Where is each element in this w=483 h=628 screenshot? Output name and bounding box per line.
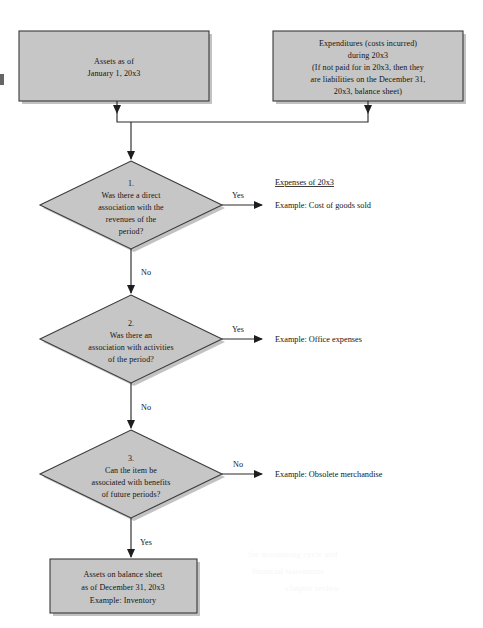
- scan-edge-artifact: [0, 74, 4, 85]
- decision-2-number: 2.: [128, 319, 134, 328]
- expenditures-box: Expenditures (costs incurred) during 20x…: [273, 31, 466, 104]
- decision-2-line-2: association with activities: [88, 343, 173, 352]
- connector-decision-2-no: No: [131, 383, 151, 428]
- connector-decision-1-yes: Yes: [222, 191, 262, 205]
- outcome-1-example: Example: Cost of goods sold: [275, 201, 372, 210]
- outcome-1-heading: Expenses of 20x3: [275, 178, 334, 187]
- outcome-3: Example: Obsolete merchandise: [275, 470, 383, 479]
- decision-3-line-3: of future periods?: [102, 490, 161, 499]
- decision-2: 2. Was there an association with activit…: [40, 295, 225, 386]
- connector-decision-3-no: No: [222, 460, 262, 474]
- decision-2-yes-label: Yes: [232, 325, 244, 334]
- expenditures-box-line-4: are liabilities on the December 31,: [311, 75, 426, 84]
- decision-1-line-4: period?: [119, 227, 144, 236]
- decision-1-line-3: revenues of the: [106, 215, 157, 224]
- connector-decision-3-yes: Yes: [131, 518, 152, 557]
- decision-1-yes-label: Yes: [232, 191, 244, 200]
- decision-1: 1. Was there a direct association with t…: [40, 161, 225, 252]
- decision-1-line-2: association with the: [98, 203, 164, 212]
- decision-2-line-1: Was there an: [110, 331, 152, 340]
- terminal-line-3: Example: Inventory: [90, 596, 157, 605]
- outcome-2-example: Example: Office expenses: [275, 335, 362, 344]
- decision-2-no-label: No: [141, 403, 151, 412]
- decision-3: 3. Can the item be associated with benef…: [40, 430, 225, 521]
- outcome-1: Expenses of 20x3 Example: Cost of goods …: [275, 178, 372, 210]
- outcome-2: Example: Office expenses: [275, 335, 362, 344]
- outcome-3-example: Example: Obsolete merchandise: [275, 470, 383, 479]
- decision-2-line-3: of the period?: [108, 355, 154, 364]
- connector-decision-2-yes: Yes: [222, 325, 262, 339]
- decision-1-no-label: No: [141, 268, 151, 277]
- assets-box-line-1: Assets as of: [94, 57, 134, 66]
- decision-3-no-label: No: [233, 460, 243, 469]
- decision-1-number: 1.: [128, 179, 134, 188]
- assets-box: Assets as of January 1, 20x3: [19, 31, 212, 104]
- connector-decision-1-no: No: [131, 249, 151, 293]
- decision-3-yes-label: Yes: [140, 538, 152, 547]
- decision-3-number: 3.: [128, 454, 134, 463]
- assets-box-line-2: January 1, 20x3: [88, 69, 141, 78]
- terminal-line-1: Assets on balance sheet: [84, 570, 164, 579]
- expenditures-box-line-1: Expenditures (costs incurred): [319, 39, 417, 48]
- terminal-line-2: as of December 31, 20x3: [81, 583, 164, 592]
- assets-balance-sheet-box: Assets on balance sheet as of December 3…: [50, 559, 200, 616]
- flowchart-canvas: the accounting cycle and financial state…: [0, 0, 483, 628]
- decision-3-line-1: Can the item be: [105, 466, 157, 475]
- expenditures-box-line-3: (If not paid for in 20x3, then they: [312, 63, 425, 72]
- decision-1-line-1: Was there a direct: [101, 191, 161, 200]
- flowchart-svg: Assets as of January 1, 20x3 Expenditure…: [0, 0, 483, 628]
- expenditures-box-line-2: during 20x3: [348, 51, 388, 60]
- decision-3-line-2: associated with benefits: [92, 478, 171, 487]
- connector-merge-bar: [117, 113, 368, 122]
- expenditures-box-line-5: 20x3, balance sheet): [334, 87, 402, 96]
